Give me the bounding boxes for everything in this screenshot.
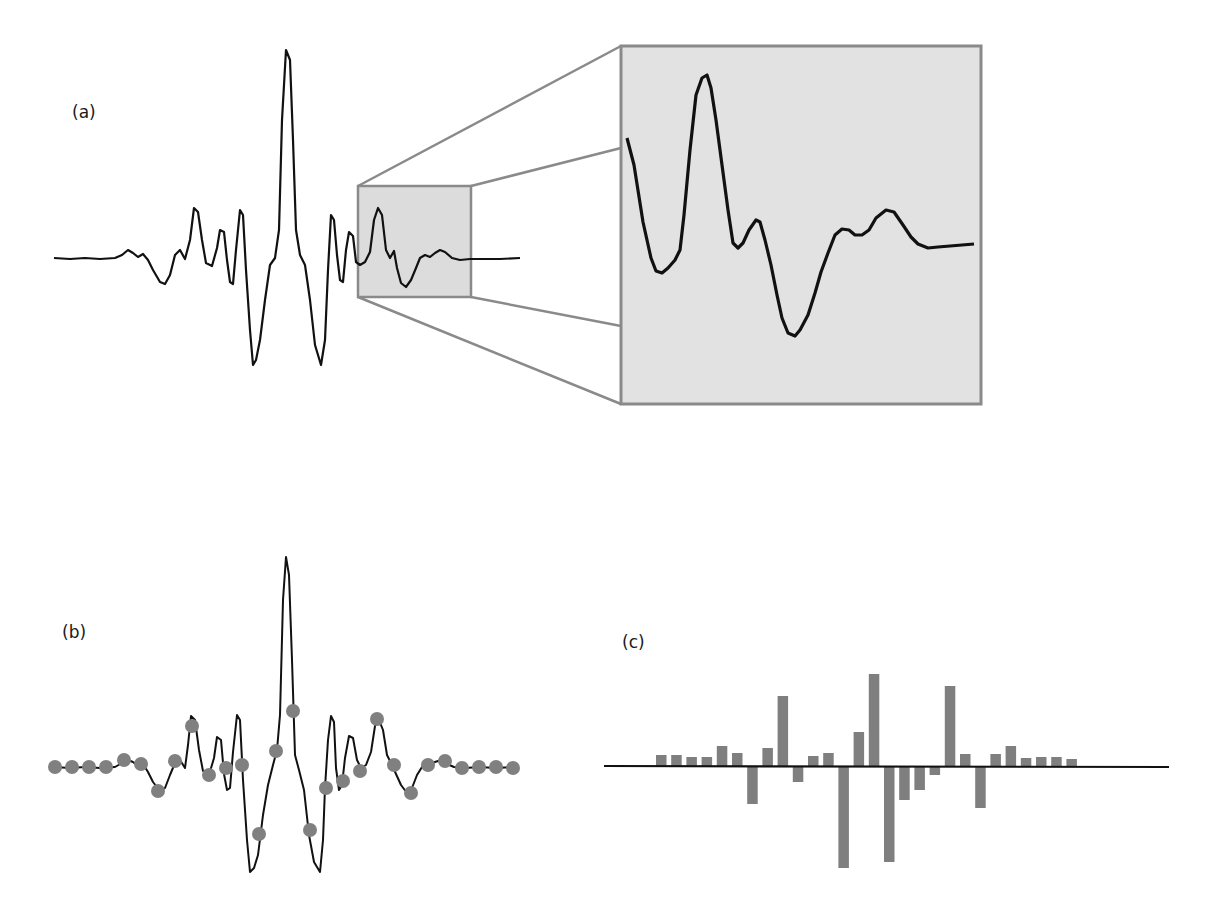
bar xyxy=(1051,757,1062,766)
bar xyxy=(899,766,910,800)
bar xyxy=(793,766,804,782)
bar xyxy=(1021,758,1032,766)
bar xyxy=(960,754,971,766)
bar xyxy=(808,756,819,766)
bar xyxy=(990,754,1001,766)
sample-points xyxy=(48,704,520,841)
bar xyxy=(884,766,895,862)
bar xyxy=(778,696,789,766)
bar-baseline xyxy=(604,766,1169,767)
bar-series xyxy=(656,674,1077,868)
bar xyxy=(838,766,849,868)
bar xyxy=(1036,757,1047,766)
bar xyxy=(914,766,925,790)
signal-waveform-b xyxy=(54,557,514,872)
bar xyxy=(702,757,713,766)
bar xyxy=(656,755,667,766)
bar xyxy=(762,748,773,766)
bar xyxy=(823,753,834,766)
zoom-inset-box xyxy=(621,46,981,404)
bar xyxy=(717,746,728,766)
bar xyxy=(732,753,743,766)
bar xyxy=(1006,746,1017,766)
zoom-region-box xyxy=(358,186,471,297)
bar xyxy=(671,755,682,766)
bar xyxy=(869,674,880,766)
bar xyxy=(747,766,758,804)
bar xyxy=(945,686,956,766)
bar xyxy=(686,757,697,766)
bar xyxy=(975,766,986,808)
bar xyxy=(1066,759,1077,766)
figure-canvas xyxy=(0,0,1208,902)
bar xyxy=(854,732,865,766)
